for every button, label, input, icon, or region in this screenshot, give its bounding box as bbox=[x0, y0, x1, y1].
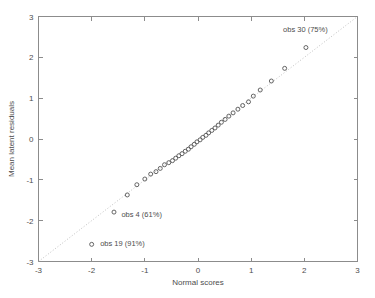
data-point-marker bbox=[227, 114, 231, 118]
x-axis-title: Normal scores bbox=[172, 278, 224, 287]
y-tick-label: 1 bbox=[29, 94, 34, 103]
y-tick-label: -1 bbox=[26, 176, 34, 185]
data-point-marker bbox=[112, 210, 116, 214]
annotation-label: obs 4 (61%) bbox=[121, 210, 162, 219]
y-axis-title: Mean latent residuals bbox=[7, 101, 16, 177]
annotation-label: obs 30 (75%) bbox=[283, 25, 328, 34]
data-point-marker bbox=[90, 242, 94, 246]
y-tick-label: -3 bbox=[26, 258, 34, 267]
data-point-marker bbox=[223, 117, 227, 121]
data-point-marker bbox=[251, 94, 255, 98]
x-tick-label: -2 bbox=[88, 266, 96, 275]
data-point-marker bbox=[269, 79, 273, 83]
x-tick-label: 2 bbox=[302, 266, 307, 275]
y-tick-label: 0 bbox=[29, 135, 34, 144]
point-annotations: obs 30 (75%)obs 4 (61%)obs 19 (91%) bbox=[100, 25, 328, 248]
x-tick-label: -3 bbox=[35, 266, 43, 275]
y-tick-label: 3 bbox=[29, 13, 34, 22]
x-tick-label: 1 bbox=[249, 266, 254, 275]
y-tick-label: 2 bbox=[29, 53, 34, 62]
data-point-marker bbox=[304, 46, 308, 50]
plot-canvas: -3-2-10123 -3-2-10123 obs 30 (75%)obs 4 … bbox=[0, 0, 375, 298]
x-tick-label: -1 bbox=[141, 266, 149, 275]
data-point-marker bbox=[163, 163, 167, 167]
x-axis-ticks: -3-2-10123 bbox=[35, 17, 360, 275]
annotation-label: obs 19 (91%) bbox=[100, 239, 145, 248]
qq-plot-figure: -3-2-10123 -3-2-10123 obs 30 (75%)obs 4 … bbox=[0, 0, 375, 298]
y-axis-ticks: -3-2-10123 bbox=[26, 13, 357, 267]
data-point-marker bbox=[283, 66, 287, 70]
x-tick-label: 0 bbox=[196, 266, 201, 275]
y-tick-label: -2 bbox=[26, 217, 34, 226]
x-tick-label: 3 bbox=[355, 266, 360, 275]
